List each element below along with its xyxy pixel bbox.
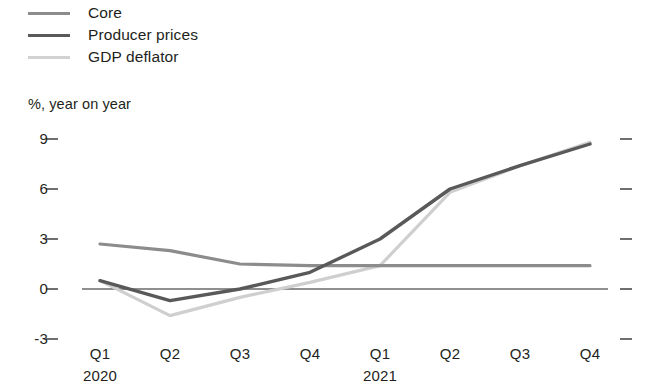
x-tick-label-q2-2020: Q2 [140, 345, 200, 362]
x-year-label-2021: 2021 [345, 367, 415, 384]
x-tick-label-q4-2020: Q4 [280, 345, 340, 362]
series-line-producer-prices [100, 144, 590, 301]
x-tick-label-q3-2020: Q3 [210, 345, 270, 362]
plot-area [0, 0, 662, 390]
y-tick-label-neg3: -3 [8, 330, 48, 347]
x-tick-label-q1-2021: Q1 [350, 345, 410, 362]
y-tick-label-0: 0 [8, 280, 48, 297]
y-tick-label-9: 9 [8, 130, 48, 147]
x-year-label-2020: 2020 [65, 367, 135, 384]
x-tick-label-q1-2020: Q1 [70, 345, 130, 362]
y-tick-label-3: 3 [8, 230, 48, 247]
x-tick-label-q4-2021: Q4 [560, 345, 620, 362]
y-tick-label-6: 6 [8, 180, 48, 197]
plot-svg [0, 0, 662, 390]
x-tick-label-q3-2021: Q3 [490, 345, 550, 362]
x-tick-label-q2-2021: Q2 [420, 345, 480, 362]
chart-container: Core Producer prices GDP deflator %, yea… [0, 0, 662, 390]
